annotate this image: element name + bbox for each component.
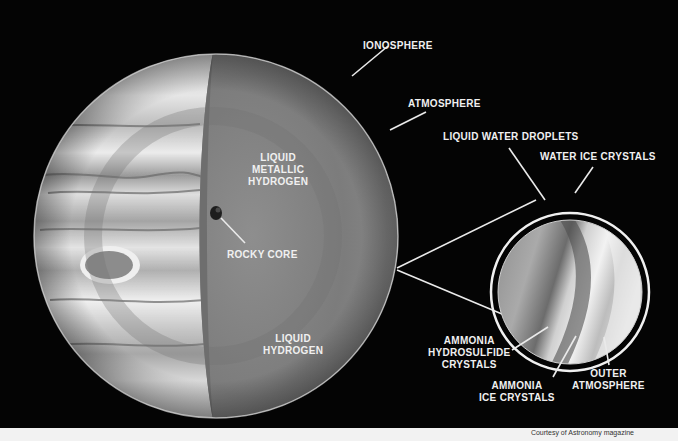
label-line: AMMONIA [479, 380, 555, 392]
label-atmosphere: ATMOSPHERE [408, 98, 481, 110]
label-liquid-water-droplets: LIQUID WATER DROPLETS [443, 131, 579, 143]
diagram-graphics [0, 0, 678, 428]
credit-text: Courtesy of Astronomy magazine [531, 429, 634, 436]
label-water-ice-crystals: WATER ICE CRYSTALS [540, 151, 656, 163]
label-line: CRYSTALS [428, 359, 511, 371]
label-line: ATMOSPHERE [572, 380, 645, 392]
label-outer-atmosphere: OUTER ATMOSPHERE [572, 368, 645, 392]
label-line: ICE CRYSTALS [479, 392, 555, 404]
label-line: HYDROGEN [248, 176, 308, 188]
label-ammonia-ice-crystals: AMMONIA ICE CRYSTALS [479, 380, 555, 404]
label-line: METALLIC [248, 164, 308, 176]
label-line: AMMONIA [428, 335, 511, 347]
label-ammonia-hydrosulfide-crystals: AMMONIA HYDROSULFIDE CRYSTALS [428, 335, 511, 371]
planet [30, 50, 430, 428]
label-line: HYDROSULFIDE [428, 347, 511, 359]
credit-footer: Courtesy of Astronomy magazine [0, 428, 678, 441]
label-rocky-core: ROCKY CORE [227, 249, 298, 261]
label-ionosphere: IONOSPHERE [363, 40, 433, 52]
label-line: LIQUID [263, 333, 323, 345]
label-liquid-hydrogen: LIQUID HYDROGEN [263, 333, 323, 357]
jupiter-diagram: IONOSPHERE ATMOSPHERE LIQUID METALLIC HY… [0, 0, 678, 428]
label-line: HYDROGEN [263, 345, 323, 357]
label-line: LIQUID [248, 152, 308, 164]
rocky-core [210, 206, 222, 220]
label-liquid-metallic-hydrogen: LIQUID METALLIC HYDROGEN [248, 152, 308, 188]
label-line: OUTER [572, 368, 645, 380]
